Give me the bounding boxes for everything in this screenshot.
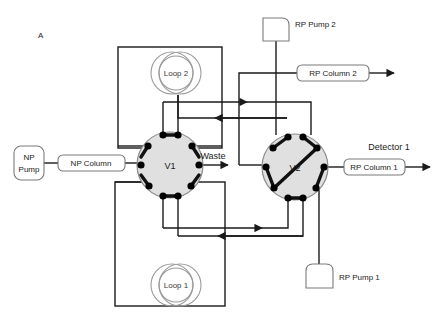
rp-pump-1[interactable]: RP Pump 1 <box>306 264 380 288</box>
rp-pump-2-box[interactable] <box>263 18 289 41</box>
figure-canvas: V1 <box>0 0 443 324</box>
np-column[interactable]: NP Column <box>58 155 125 171</box>
rp-pump-2-label: RP Pump 2 <box>295 20 336 29</box>
detector-1-label: Detector 1 <box>368 142 410 152</box>
valve-v2[interactable]: V2 <box>262 133 328 201</box>
rp-column-1[interactable]: RP Column 1 <box>344 159 405 175</box>
loop2-label: Loop 2 <box>164 69 189 78</box>
rp-pump-1-box[interactable] <box>306 264 333 288</box>
np-pump[interactable]: NP Pump <box>14 146 44 180</box>
plumbing-lines <box>44 41 430 264</box>
np-column-label: NP Column <box>71 159 112 168</box>
np-pump-label-line2: Pump <box>19 165 40 174</box>
line-transfer-lower-left-cont <box>178 198 303 236</box>
loop1-label: Loop 1 <box>164 281 189 290</box>
line-transfer-upper-left-cont <box>178 95 287 118</box>
waste-label: Waste <box>200 151 225 161</box>
np-pump-label-line1: NP <box>23 153 34 162</box>
valve-v1[interactable]: V1 <box>137 131 203 199</box>
panel-label: A <box>38 31 44 40</box>
rp-pump-1-label: RP Pump 1 <box>339 273 380 282</box>
rp-column-2[interactable]: RP Column 2 <box>297 65 369 81</box>
rp-column-2-label: RP Column 2 <box>309 69 357 78</box>
valve-v1-label: V1 <box>164 161 175 171</box>
valve-v2-label: V2 <box>289 163 300 173</box>
rp-column-1-label: RP Column 1 <box>350 163 398 172</box>
rp-pump-2[interactable]: RP Pump 2 <box>263 18 336 41</box>
line-transfer-lower-right-cont <box>262 198 288 228</box>
np-pump-box[interactable] <box>14 146 44 180</box>
schematic-diagram: V1 <box>0 0 443 324</box>
